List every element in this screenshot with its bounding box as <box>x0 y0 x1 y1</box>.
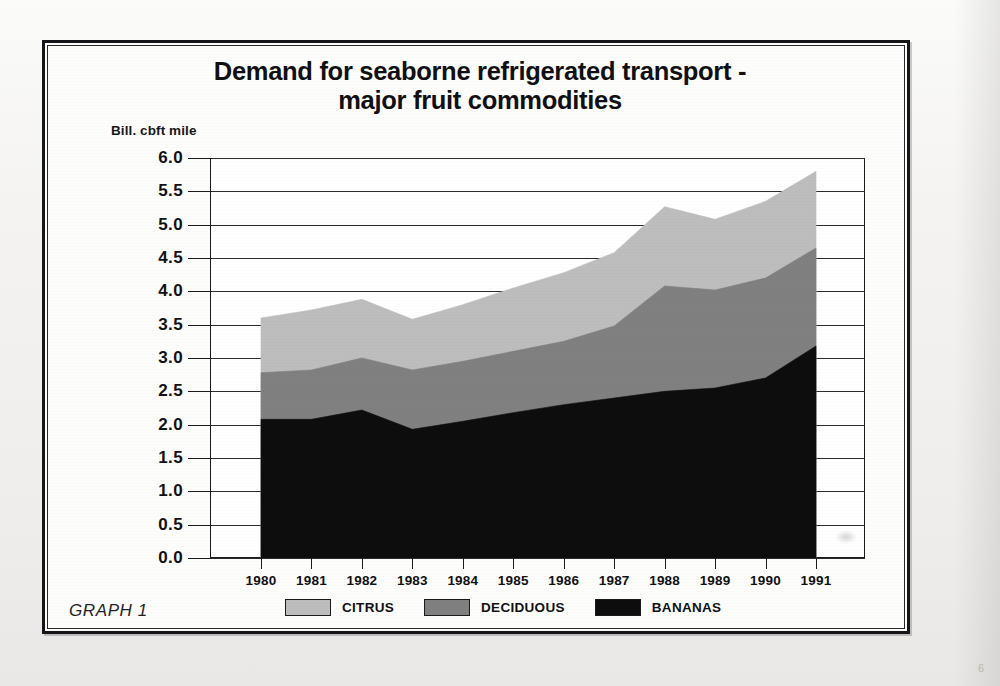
x-axis-tick <box>564 558 565 569</box>
y-axis-tick <box>188 258 212 259</box>
y-axis-tick-label: 2.5 <box>113 381 183 401</box>
chart-figure: Demand for seaborne refrigerated transpo… <box>42 40 910 634</box>
x-axis-tick <box>766 558 767 569</box>
graph-caption: GRAPH 1 <box>69 601 148 621</box>
x-axis-tick <box>412 558 413 569</box>
legend-swatch-citrus <box>285 599 331 616</box>
chart-title: Demand for seaborne refrigerated transpo… <box>105 57 855 116</box>
y-axis-tick-label: 0.0 <box>113 548 183 568</box>
x-axis-tick <box>362 558 363 569</box>
x-axis-tick <box>261 558 262 569</box>
stacked-area-plot <box>210 158 865 558</box>
y-axis-tick-label: 5.0 <box>113 215 183 235</box>
x-axis-tick <box>614 558 615 569</box>
page-corner-mark: 6 <box>978 662 984 674</box>
legend-item-deciduous: DECIDUOUS <box>424 599 565 616</box>
y-axis-tick-label: 6.0 <box>113 148 183 168</box>
y-axis-tick <box>188 558 212 559</box>
y-axis-tick <box>188 491 212 492</box>
y-axis-tick <box>188 391 212 392</box>
legend-item-citrus: CITRUS <box>285 599 394 616</box>
y-axis-tick-label: 2.0 <box>113 415 183 435</box>
y-axis-tick-label: 0.5 <box>113 515 183 535</box>
y-axis-tick-label: 4.0 <box>113 281 183 301</box>
x-axis-tick <box>463 558 464 569</box>
x-axis-tick <box>715 558 716 569</box>
y-axis-tick-label: 3.0 <box>113 348 183 368</box>
y-axis-tick <box>188 158 212 159</box>
chart-title-line-2: major fruit commodities <box>105 86 855 115</box>
y-axis-tick <box>188 358 212 359</box>
y-axis-tick-label: 4.5 <box>113 248 183 268</box>
x-axis-tick-label: 1991 <box>786 573 846 588</box>
chart-legend: CITRUSDECIDUOUSBANANAS <box>285 599 751 616</box>
legend-swatch-deciduous <box>424 599 470 616</box>
y-axis-tick-label: 5.5 <box>113 181 183 201</box>
y-axis-tick <box>188 225 212 226</box>
x-axis-tick <box>311 558 312 569</box>
scanned-page: Demand for seaborne refrigerated transpo… <box>0 0 1000 686</box>
x-axis-tick <box>513 558 514 569</box>
y-axis-tick <box>188 525 212 526</box>
y-axis-units-label: Bill. cbft mile <box>111 123 197 138</box>
x-axis-tick <box>816 558 817 569</box>
x-axis-tick <box>665 558 666 569</box>
legend-label-bananas: BANANAS <box>652 600 722 615</box>
legend-label-deciduous: DECIDUOUS <box>481 600 565 615</box>
y-axis-tick <box>188 458 212 459</box>
y-axis-tick <box>188 325 212 326</box>
y-axis-tick <box>188 191 212 192</box>
legend-swatch-bananas <box>595 599 641 616</box>
legend-item-bananas: BANANAS <box>595 599 722 616</box>
chart-title-line-1: Demand for seaborne refrigerated transpo… <box>214 57 746 85</box>
gridline <box>210 558 865 559</box>
legend-label-citrus: CITRUS <box>342 600 394 615</box>
y-axis-tick-label: 1.5 <box>113 448 183 468</box>
y-axis-tick <box>188 291 212 292</box>
y-axis-tick-label: 3.5 <box>113 315 183 335</box>
y-axis-tick-label: 1.0 <box>113 481 183 501</box>
y-axis-tick <box>188 425 212 426</box>
